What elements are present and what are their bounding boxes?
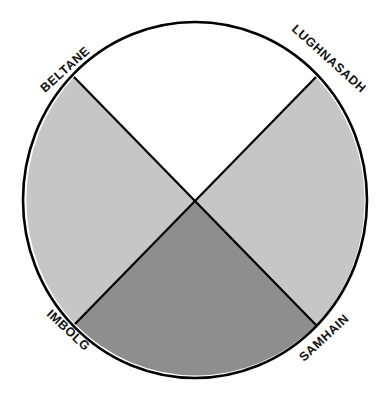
wheel-diagram: BELTANE LUGHNASADH IMBOLG SAMHAIN	[0, 0, 390, 401]
